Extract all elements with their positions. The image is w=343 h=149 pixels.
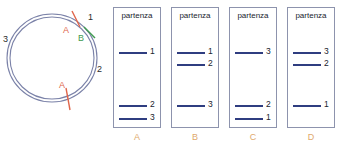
- cut-site-label-a-bottom: A: [59, 81, 65, 90]
- dna-band: [235, 118, 263, 120]
- dna-band-label: 1: [208, 47, 213, 56]
- dna-band-label: 2: [208, 59, 213, 68]
- gel-panel-a: partenza123A: [113, 7, 161, 128]
- dna-band: [119, 105, 147, 107]
- dna-band-label: 3: [150, 113, 155, 122]
- cut-mark-b-top: [84, 27, 95, 38]
- dna-band-label: 2: [150, 100, 155, 109]
- panel-letter-label: B: [171, 133, 219, 142]
- lane-start-label: partenza: [172, 12, 218, 20]
- dna-band-label: 2: [266, 100, 271, 109]
- dna-band: [235, 52, 263, 54]
- dna-band: [119, 118, 147, 120]
- cut-site-label-a-top: A: [63, 26, 69, 35]
- circular-dna-map: 1 2 3 A B A: [0, 0, 110, 135]
- dna-strand-inner: [10, 17, 94, 99]
- dna-band: [235, 105, 263, 107]
- lane-start-label: partenza: [230, 12, 276, 20]
- panel-letter-label: C: [229, 133, 277, 142]
- gel-lane-box: partenza123: [113, 7, 161, 128]
- gel-panel-d: partenza321D: [287, 7, 335, 128]
- dna-band: [177, 105, 205, 107]
- gel-lane-box: partenza123: [171, 7, 219, 128]
- segment-label-1: 1: [88, 13, 93, 22]
- lane-start-label: partenza: [288, 12, 334, 20]
- gel-panel-group: partenza123Apartenza123Bpartenza321Cpart…: [113, 7, 343, 149]
- segment-label-2: 2: [97, 65, 102, 74]
- figure-root: 1 2 3 A B A partenza123Apartenza123Bpart…: [0, 0, 343, 149]
- dna-band: [293, 105, 321, 107]
- dna-band-label: 3: [324, 47, 329, 56]
- lane-start-label: partenza: [114, 12, 160, 20]
- dna-band-label: 2: [324, 59, 329, 68]
- circle-svg: [0, 0, 110, 135]
- panel-letter-label: A: [113, 133, 161, 142]
- panel-letter-label: D: [287, 133, 335, 142]
- cut-site-label-b-top: B: [78, 34, 84, 43]
- dna-band-label: 3: [266, 47, 271, 56]
- dna-band: [293, 64, 321, 66]
- gel-lane-box: partenza321: [287, 7, 335, 128]
- dna-band-label: 1: [150, 47, 155, 56]
- gel-lane-box: partenza321: [229, 7, 277, 128]
- dna-band-label: 1: [266, 113, 271, 122]
- dna-band: [119, 52, 147, 54]
- dna-band: [177, 64, 205, 66]
- segment-label-3: 3: [3, 35, 8, 44]
- dna-band-label: 3: [208, 100, 213, 109]
- gel-panel-b: partenza123B: [171, 7, 219, 128]
- dna-band: [177, 52, 205, 54]
- dna-band-label: 1: [324, 100, 329, 109]
- dna-band: [293, 52, 321, 54]
- dna-strand-outer: [7, 14, 97, 102]
- gel-panel-c: partenza321C: [229, 7, 277, 128]
